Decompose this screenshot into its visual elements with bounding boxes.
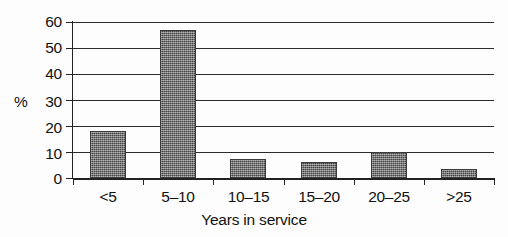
x-tick-mark-4 xyxy=(354,178,355,185)
y-tick-label-10: 10 xyxy=(32,146,62,162)
bar-20-25 xyxy=(371,152,407,178)
x-tick-label-15-20: 15–20 xyxy=(284,188,354,206)
gridline-10 xyxy=(73,152,494,153)
x-tick-mark-3 xyxy=(284,178,285,185)
y-tick-label-30: 30 xyxy=(32,94,62,110)
x-tick-label-gt25: >25 xyxy=(424,188,494,206)
y-tick-label-50: 50 xyxy=(32,40,62,56)
y-tick-label-40: 40 xyxy=(32,66,62,82)
x-tick-mark-6 xyxy=(494,178,495,185)
bar-10-15 xyxy=(230,159,266,179)
bar-lt5 xyxy=(90,131,126,178)
gridline-20 xyxy=(73,126,494,127)
x-tick-label-10-15: 10–15 xyxy=(213,188,284,206)
bar-15-20 xyxy=(301,162,337,178)
x-tick-label-5-10: 5–10 xyxy=(143,188,213,206)
x-tick-label-20-25: 20–25 xyxy=(354,188,424,206)
x-axis-title: Years in service xyxy=(0,211,508,229)
gridline-50 xyxy=(73,48,494,49)
x-tick-mark-1 xyxy=(143,178,144,185)
bar-5-10 xyxy=(160,30,196,178)
gridline-40 xyxy=(73,74,494,75)
plot-area xyxy=(73,22,494,178)
x-tick-mark-2 xyxy=(213,178,214,185)
gridline-60 xyxy=(73,22,494,23)
x-tick-mark-5 xyxy=(424,178,425,185)
y-tick-label-0: 0 xyxy=(32,171,62,187)
bar-chart-figure: % 60 50 40 30 20 10 0 <5 5–10 10–15 xyxy=(0,0,508,237)
y-tick-label-60: 60 xyxy=(32,14,62,30)
gridline-30 xyxy=(73,100,494,101)
y-axis-unit-label: % xyxy=(14,94,32,110)
x-tick-mark-0 xyxy=(73,178,74,185)
bar-gt25 xyxy=(441,169,477,178)
x-tick-label-lt5: <5 xyxy=(73,188,143,206)
y-tick-label-20: 20 xyxy=(32,120,62,136)
